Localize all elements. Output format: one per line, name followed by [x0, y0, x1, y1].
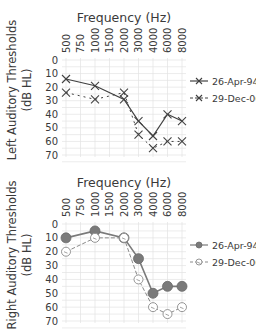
- y-tick-label: 10: [45, 68, 58, 79]
- open-circle-marker: [196, 259, 202, 265]
- x-tick-label: 6000: [162, 192, 173, 217]
- open-circle-marker: [62, 247, 71, 256]
- y-tick-label: 60: [45, 302, 58, 313]
- y-tick-label: 40: [45, 109, 58, 120]
- x-tick-label: 2000: [119, 192, 130, 217]
- x-tick-label: 1000: [90, 28, 101, 53]
- y-tick-label: 40: [45, 274, 58, 285]
- y-tick-label: 70: [45, 316, 58, 327]
- x-tick-label: 500: [61, 34, 72, 53]
- open-circle-marker: [178, 303, 187, 312]
- y-tick-label: 0: [52, 219, 58, 230]
- x-tick-label: 750: [75, 34, 86, 53]
- y-tick-label: 50: [45, 288, 58, 299]
- y-axis-label-unit: (dB HL): [20, 234, 34, 277]
- open-circle-marker: [120, 233, 129, 242]
- x-tick-label: 6000: [162, 28, 173, 53]
- x-tick-label: 750: [75, 198, 86, 217]
- legend: 26-Apr-9429-Dec-06: [190, 76, 256, 104]
- x-tick-label: 3000: [133, 28, 144, 53]
- y-axis-label: Right Auditory Thresholds: [5, 181, 19, 330]
- x-tick-label: 4000: [148, 28, 159, 53]
- x-tick-label: 3000: [133, 192, 144, 217]
- open-circle-marker: [149, 303, 158, 312]
- open-circle-marker: [91, 233, 100, 242]
- y-tick-label: 70: [45, 150, 58, 161]
- left-ear-chart: Frequency (Hz)50075010001500200030004000…: [0, 0, 256, 165]
- y-tick-label: 30: [45, 95, 58, 106]
- x-tick-label: 1500: [104, 28, 115, 53]
- y-tick-label: 50: [45, 122, 58, 133]
- y-tick-label: 0: [52, 55, 58, 66]
- y-axis-label: Left Auditory Thresholds: [5, 20, 19, 160]
- right-ear-chart: Frequency (Hz)50075010001500200030004000…: [0, 165, 256, 331]
- chart-title: Frequency (Hz): [77, 175, 171, 190]
- right-ear-plot: Frequency (Hz)50075010001500200030004000…: [0, 165, 256, 331]
- gridlines: [62, 58, 186, 162]
- filled-circle-marker: [61, 233, 71, 243]
- filled-circle-marker: [196, 242, 202, 248]
- y-tick-label: 60: [45, 136, 58, 147]
- open-circle-marker: [134, 275, 143, 284]
- y-tick-label: 20: [45, 82, 58, 93]
- filled-circle-marker: [134, 254, 144, 264]
- y-tick-label: 10: [45, 232, 58, 243]
- y-tick-label: 20: [45, 246, 58, 257]
- x-tick-label: 8000: [177, 28, 188, 53]
- y-tick-label: 30: [45, 260, 58, 271]
- x-tick-label: 1000: [90, 192, 101, 217]
- x-tick-label: 500: [61, 198, 72, 217]
- x-tick-label: 8000: [177, 192, 188, 217]
- filled-circle-marker: [163, 281, 173, 291]
- legend-label: 29-Dec-06: [212, 257, 256, 268]
- legend: 26-Apr-9429-Dec-06: [190, 240, 256, 268]
- x-tick-label: 4000: [148, 192, 159, 217]
- x-tick-label: 1500: [104, 192, 115, 217]
- chart-title: Frequency (Hz): [77, 10, 171, 25]
- legend-label: 29-Dec-06: [212, 93, 256, 104]
- left-ear-plot: Frequency (Hz)50075010001500200030004000…: [0, 0, 256, 165]
- filled-circle-marker: [148, 288, 158, 298]
- open-circle-marker: [163, 310, 172, 319]
- y-axis-label-unit: (dB HL): [20, 69, 34, 112]
- legend-label: 26-Apr-94: [212, 76, 256, 87]
- legend-label: 26-Apr-94: [212, 240, 256, 251]
- filled-circle-marker: [177, 281, 187, 291]
- x-tick-label: 2000: [119, 28, 130, 53]
